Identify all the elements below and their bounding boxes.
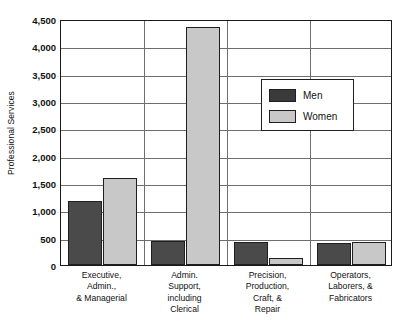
x-axis-category-label-line: & Managerial: [60, 293, 143, 304]
x-axis-category-label-line: Fabricators: [309, 293, 392, 304]
bar-men: [68, 201, 102, 265]
x-axis-category-label-line: Laborers, &: [309, 281, 392, 292]
bar-women: [352, 242, 386, 265]
bar-women: [103, 178, 137, 265]
x-axis-category-label-line: Precision,: [226, 270, 309, 281]
x-axis-category-label-line: Craft, &: [226, 293, 309, 304]
bar-group: [310, 21, 393, 265]
y-axis-tick-labels: 05001,0001,5002,0002,5003,0003,5004,0004…: [18, 0, 60, 266]
x-axis-category-label-line: Clerical: [143, 304, 226, 315]
plot-area: MenWomen: [60, 20, 392, 266]
x-axis-category-label-line: including: [143, 293, 226, 304]
y-axis-tick-label: 500: [40, 233, 56, 244]
legend: MenWomen: [261, 79, 354, 131]
y-axis-tick-label: 2,500: [32, 124, 56, 135]
y-axis-tick-label: 4,000: [32, 42, 56, 53]
y-axis-tick-label: 2,000: [32, 151, 56, 162]
y-axis-tick-label: 1,500: [32, 179, 56, 190]
bar-group: [227, 21, 310, 265]
bar-chart-figure: Professional Services 05001,0001,5002,00…: [0, 0, 400, 332]
bar-women: [269, 258, 303, 265]
y-axis-tick-label: 1,000: [32, 206, 56, 217]
bar-group: [144, 21, 227, 265]
legend-item-women: Women: [269, 107, 346, 125]
y-axis-title-text: Professional Services: [6, 91, 16, 175]
legend-swatch-men: [269, 89, 296, 102]
bar-women: [186, 27, 220, 265]
x-axis-category-label-line: Executive,: [60, 270, 143, 281]
bar-men: [317, 243, 351, 265]
x-axis-category-label-line: Admin.: [143, 270, 226, 281]
x-axis-category-label-line: Repair: [226, 304, 309, 315]
x-axis-category-label: Precision,Production,Craft, &Repair: [226, 270, 309, 316]
bars-layer: [61, 21, 391, 265]
x-axis-category-label-line: Admin.,: [60, 281, 143, 292]
x-axis-category-labels: Executive,Admin.,& ManagerialAdmin.Suppo…: [60, 270, 392, 330]
legend-item-men: Men: [269, 86, 346, 104]
bar-group: [61, 21, 144, 265]
bar-men: [234, 242, 268, 265]
legend-swatch-women: [269, 110, 296, 123]
x-axis-category-label-line: Operators,: [309, 270, 392, 281]
x-axis-category-label-line: Support,: [143, 281, 226, 292]
x-axis-category-label: Admin.Support,includingClerical: [143, 270, 226, 316]
x-axis-category-label-line: Production,: [226, 281, 309, 292]
y-axis-tick-label: 3,500: [32, 69, 56, 80]
x-axis-category-label: Operators,Laborers, &Fabricators: [309, 270, 392, 304]
y-axis-tick-label: 0: [51, 261, 56, 272]
legend-label: Men: [303, 90, 322, 101]
legend-label: Women: [303, 111, 337, 122]
y-axis-tick-label: 3,000: [32, 97, 56, 108]
x-axis-category-label: Executive,Admin.,& Managerial: [60, 270, 143, 304]
y-axis-tick-label: 4,500: [32, 15, 56, 26]
bar-men: [151, 241, 185, 265]
